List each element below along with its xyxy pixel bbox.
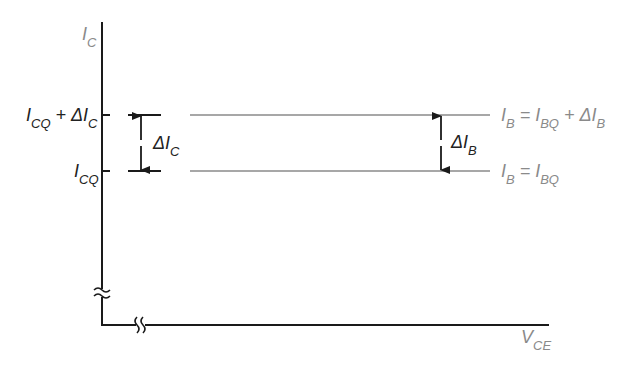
label-curve-upper: IB = IBQ + ΔIB — [501, 105, 606, 131]
label-icq: ICQ — [74, 161, 99, 187]
label-delta-ic: ΔIC — [152, 133, 180, 159]
label-delta-ib: ΔIB — [450, 132, 477, 158]
label-curve-lower: IB = IBQ — [501, 161, 559, 187]
y-axis-break-icon — [94, 288, 110, 298]
bjt-characteristic-diagram: IC VCE ICQ + ΔIC ICQ ΔIC ΔIB IB = IBQ + … — [0, 0, 630, 371]
x-axis-break-icon — [135, 317, 145, 333]
label-icq-plus-delta: ICQ + ΔIC — [26, 105, 98, 131]
x-axis-label: VCE — [521, 327, 551, 353]
y-axis-label: IC — [82, 24, 97, 50]
